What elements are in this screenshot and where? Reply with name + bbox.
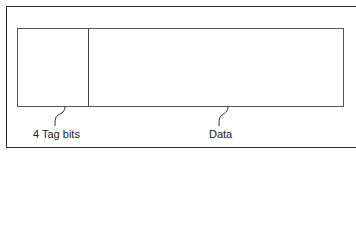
data-callout-brace	[219, 106, 228, 126]
tag-bits-label: 4 Tag bits	[33, 128, 80, 140]
tag-callout-brace	[55, 106, 65, 126]
data-label: Data	[209, 128, 232, 140]
